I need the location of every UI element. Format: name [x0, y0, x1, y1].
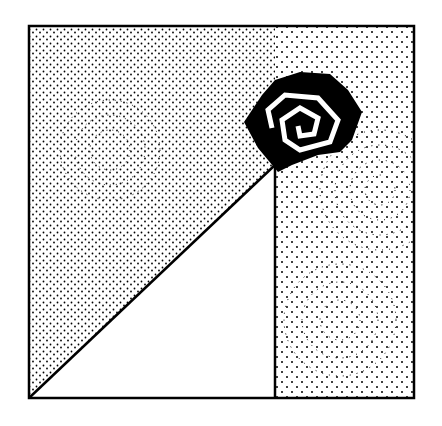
illustration [0, 0, 442, 426]
